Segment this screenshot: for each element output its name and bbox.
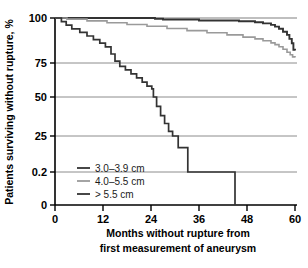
chart-legend: 3.0–3.9 cm4.0–5.5 cm> 5.5 cm xyxy=(77,163,144,200)
series-line-2 xyxy=(55,18,295,58)
survival-chart-figure: 00.2255075100 01224364860 Patients survi… xyxy=(0,0,308,268)
series-line-1 xyxy=(55,18,295,50)
y-tick-label: 75 xyxy=(35,57,47,69)
y-axis-tick-labels: 00.2255075100 xyxy=(29,12,47,211)
y-tick-label: 100 xyxy=(29,12,47,24)
x-tick-label: 24 xyxy=(145,213,158,225)
x-tick-label: 12 xyxy=(97,213,109,225)
y-tick-label: 50 xyxy=(35,91,47,103)
gridlines xyxy=(55,18,297,172)
x-axis-tick-labels: 01224364860 xyxy=(52,213,301,225)
x-tick-label: 48 xyxy=(241,213,253,225)
series-line-3 xyxy=(55,18,235,205)
x-axis-ticks xyxy=(55,205,295,211)
x-tick-label: 0 xyxy=(52,213,58,225)
y-tick-label: 0.2 xyxy=(32,166,47,178)
x-axis-title-line1: Months without rupture from xyxy=(106,227,249,239)
x-tick-label: 36 xyxy=(193,213,205,225)
y-axis-title: Patients surviving without rupture, % xyxy=(3,19,15,205)
y-tick-label: 25 xyxy=(35,130,47,142)
legend-label-2: 4.0–5.5 cm xyxy=(95,176,144,187)
x-tick-label: 60 xyxy=(289,213,301,225)
chart-canvas: 00.2255075100 01224364860 Patients survi… xyxy=(0,0,308,268)
data-series-group xyxy=(55,18,295,205)
legend-label-3: > 5.5 cm xyxy=(95,189,134,200)
legend-label-1: 3.0–3.9 cm xyxy=(95,163,144,174)
x-axis-title-line2: first measurement of aneurysm xyxy=(100,242,256,254)
y-tick-label: 0 xyxy=(41,199,47,211)
